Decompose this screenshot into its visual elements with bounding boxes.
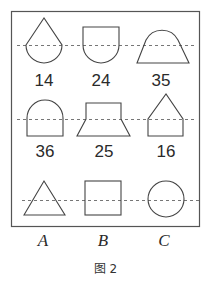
circle-icon [148,181,184,217]
option-c-label: C [144,232,184,250]
label-36: 36 [20,143,70,161]
label-24: 24 [76,72,126,90]
arch-shape-icon [27,100,63,136]
label-14: 14 [19,72,69,90]
teardrop-shape-icon [26,18,62,63]
dome-trapezoid-shape-icon [137,30,189,63]
label-35: 35 [136,72,186,90]
label-25: 25 [79,143,129,161]
square-semicircle-shape-icon [83,27,119,63]
puzzle-frame [12,12,200,227]
figure-caption: 图 2 [0,262,211,276]
house-shape-icon [148,94,183,136]
option-b-label: B [83,232,123,250]
figure-2: 14 24 35 36 25 16 A B C 图 2 [0,0,211,284]
square-icon [85,181,121,215]
option-a-label: A [23,232,63,250]
label-16: 16 [141,143,191,161]
triangle-icon [24,181,65,215]
